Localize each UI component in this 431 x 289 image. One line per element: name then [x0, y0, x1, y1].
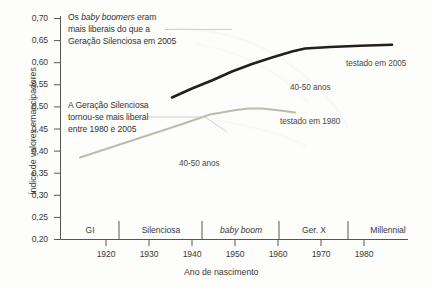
x-axis-title: Ano de nascimento: [184, 267, 258, 278]
callout-baby-boomers-line3: Geração Silenciosa em 2005: [68, 35, 176, 47]
callout-silenciosa-line3: entre 1980 e 2005: [68, 123, 149, 135]
y-tick-label-060: 0,60: [18, 57, 48, 68]
y-tick-label-025: 0,25: [18, 212, 48, 223]
emancipative-values-chart: Índice de valores emancipadores 0,70 0,6…: [0, 0, 431, 289]
chart-canvas: [0, 0, 431, 289]
callout-silenciosa-line2: tornou-se mais liberal: [68, 111, 149, 123]
generation-band-gi: GI: [50, 225, 130, 236]
series-line-2005: [172, 45, 392, 98]
series-label-1980: testado em 1980: [280, 117, 340, 128]
callout-text-italic: baby boomers: [81, 12, 135, 22]
x-tick-label-1920: 1920: [89, 249, 123, 260]
x-tick-label-1960: 1960: [261, 249, 295, 260]
callout-baby-boomers: Os baby boomers eram mais liberais do qu…: [68, 11, 176, 48]
x-tick-label-1980: 1980: [347, 249, 381, 260]
y-tick-label-020: 0,20: [18, 234, 48, 245]
y-tick-label-035: 0,35: [18, 168, 48, 179]
y-tick-marks: [54, 19, 61, 240]
x-tick-marks: [106, 240, 364, 247]
series-label-age-2005: 40-50 anos: [290, 83, 330, 94]
x-tick-label-1940: 1940: [175, 249, 209, 260]
y-tick-label-030: 0,30: [18, 190, 48, 201]
y-tick-label-055: 0,55: [18, 79, 48, 90]
generation-band-silenciosa: Silenciosa: [121, 225, 201, 236]
callout-baby-boomers-line2: mais liberais do que a: [68, 23, 176, 35]
y-tick-label-070: 0,70: [18, 13, 48, 24]
generation-band-millennial: Millennial: [348, 225, 428, 236]
x-tick-label-1930: 1930: [132, 249, 166, 260]
y-tick-label-040: 0,40: [18, 146, 48, 157]
y-tick-label-050: 0,50: [18, 101, 48, 112]
generation-band-ger-x: Ger. X: [274, 225, 354, 236]
callout-silenciosa-line1: A Geração Silenciosa: [68, 99, 149, 111]
y-tick-label-045: 0,45: [18, 124, 48, 135]
series-label-age-1980: 40-50 anos: [179, 159, 219, 170]
callout-text-prefix: Os: [68, 12, 81, 22]
x-tick-label-1970: 1970: [304, 249, 338, 260]
callout-text-suffix: eram: [135, 12, 157, 22]
callout-geracao-silenciosa: A Geração Silenciosa tornou-se mais libe…: [68, 99, 149, 136]
series-label-2005: testado em 2005: [346, 59, 406, 70]
generation-band-baby-boom: baby boom: [201, 225, 281, 236]
x-tick-label-1950: 1950: [218, 249, 252, 260]
callout-baby-boomers-line1: Os baby boomers eram: [68, 11, 176, 23]
y-tick-label-065: 0,65: [18, 35, 48, 46]
